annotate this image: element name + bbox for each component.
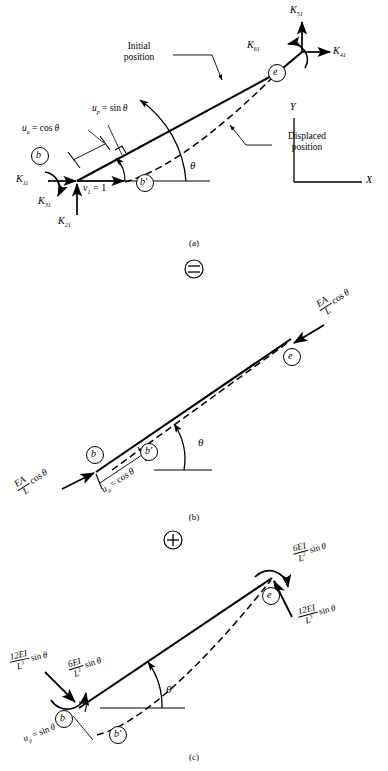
leader-displaced-position-d [230, 125, 246, 145]
angle-arc-c [148, 662, 162, 708]
member-initial-position-c [79, 578, 272, 708]
dimension-tick-ua-end [100, 136, 110, 150]
annotation-displaced-position: Displaced position [272, 131, 342, 153]
node-label-b-a: b [36, 150, 41, 160]
force-label-K21: K21 [58, 216, 71, 228]
figure-vector-layer [0, 0, 388, 771]
node-label-b-prime-c: b′ [114, 729, 121, 739]
force-label-K51: K51 [290, 5, 303, 17]
node-label-b-prime-a: b′ [140, 177, 147, 187]
node-label-b-prime-b: b′ [145, 446, 152, 456]
unit-displacement-label-a: v1 = 1 [83, 183, 106, 195]
operator-equals-graphic [185, 260, 203, 278]
leader-up-a [108, 125, 122, 155]
component-label-up-a: up = sin θ [92, 104, 127, 116]
member-initial-position-b [96, 339, 291, 472]
panel-caption-b: (b) [0, 512, 388, 522]
angle-arc-a [140, 100, 186, 181]
angle-arc-b [174, 424, 185, 470]
axis-label-x: X [366, 175, 372, 185]
node-label-e-c: e [267, 590, 271, 600]
force-label-K11: K11 [16, 174, 28, 186]
node-label-e-b: e [288, 351, 292, 361]
panel-b-graphics [62, 325, 324, 489]
force-label-K41: K41 [333, 46, 346, 58]
offset-arc-up-a [116, 158, 125, 181]
annotation-initial-position: Initial position [108, 41, 170, 63]
panel-caption-c: (c) [0, 752, 388, 762]
member-initial-position-a [77, 73, 277, 181]
dimension-line-ua-a [73, 144, 105, 160]
force-label-K31: K31 [38, 196, 51, 208]
node-label-b-b: b [91, 449, 96, 459]
dimension-line-up-c [73, 716, 93, 740]
member-displaced-position-c [97, 580, 271, 735]
dimension-tick-ua-start [68, 152, 80, 168]
component-label-ua-a: ua = cos θ [22, 124, 59, 136]
leader-ua-a [88, 130, 104, 143]
panel-a-graphics [32, 22, 363, 215]
member-displaced-position-b [112, 341, 290, 470]
node-label-b-c: b [60, 713, 65, 723]
angle-label-a: θ [190, 160, 195, 171]
angle-label-b: θ [198, 437, 203, 448]
axis-label-y: Y [290, 102, 296, 112]
figure-root: b b′ e K11 K21 K31 K41 K51 K61 v1 = 1 ua… [0, 0, 388, 771]
moment-arc-K31 [45, 172, 60, 196]
panel-caption-a: (a) [0, 238, 388, 248]
node-label-e-a: e [273, 67, 277, 77]
force-arrow-axial-e [294, 325, 324, 343]
force-arrow-axial-b [62, 473, 94, 489]
member-displaced-position-a [125, 74, 276, 182]
force-label-K61: K61 [247, 40, 260, 52]
angle-label-c: θ [166, 684, 171, 695]
operator-plus-graphic [164, 531, 182, 549]
leader-initial-position-d [212, 55, 222, 80]
